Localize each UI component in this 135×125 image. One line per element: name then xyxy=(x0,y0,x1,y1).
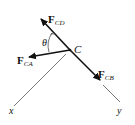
joint-c xyxy=(69,49,72,52)
label-x-axis: x xyxy=(8,105,14,116)
free-body-diagram: FCD FCA FCB C θ x y xyxy=(0,0,135,125)
label-theta: θ xyxy=(42,37,47,48)
label-f-cb: FCB xyxy=(98,68,114,82)
angle-arc xyxy=(48,33,52,52)
label-y-axis: y xyxy=(116,105,122,116)
label-f-cd: FCD xyxy=(48,13,64,27)
y-axis-line xyxy=(103,85,120,102)
angle-arc-tick xyxy=(51,33,54,35)
label-node-c: C xyxy=(74,43,82,55)
diagram-svg: FCD FCA FCB C θ x y xyxy=(0,0,135,125)
